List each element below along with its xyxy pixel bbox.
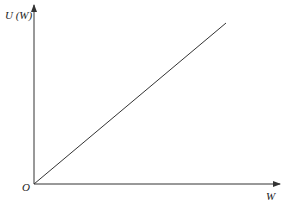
x-axis-label: W [266,190,275,202]
utility-line [34,23,226,184]
y-axis-label: U (W) [5,9,32,21]
diagram-canvas [0,0,286,210]
origin-label: O [22,181,30,193]
